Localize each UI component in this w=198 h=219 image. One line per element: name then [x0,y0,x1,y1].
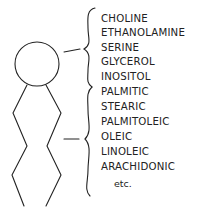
substituent-choline: CHOLINE [101,12,148,26]
head-connector-line [64,49,80,52]
fatty-acid-stearic: STEARIC [101,100,146,114]
fatty-acid-arachidonic: ARACHIDONIC [101,160,175,174]
head-substituent-brace [84,8,95,87]
fatty-acid-tail-left [12,85,27,206]
polar-head-circle [15,42,59,86]
phospholipid-diagram: CHOLINE ETHANOLAMINE SERINE GLYCEROL INO… [0,0,198,219]
substituent-ethanolamine: ETHANOLAMINE [101,26,185,40]
etc-label: etc. [114,178,132,189]
fatty-acid-oleic: OLEIC [101,130,132,144]
fatty-acid-brace [85,87,92,196]
fatty-acid-palmitoleic: PALMITOLEIC [101,115,170,129]
substituent-serine: SERINE [101,41,139,55]
substituent-glycerol: GLYCEROL [101,55,155,69]
fatty-acid-tail-right [46,85,61,206]
fatty-acid-palmitic: PALMITIC [101,85,149,99]
substituent-inositol: INOSITOL [101,70,151,84]
fatty-acid-linoleic: LINOLEIC [101,145,149,159]
